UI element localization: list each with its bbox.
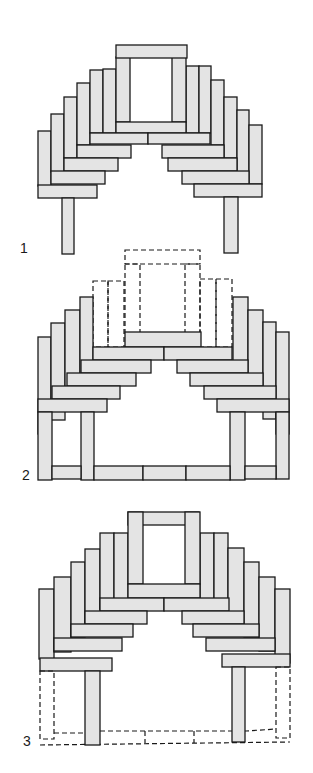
panel-label-3: 3 <box>23 733 31 749</box>
panel-3-diagram <box>39 512 290 745</box>
panel-label-1: 1 <box>20 240 28 256</box>
panel-label-2: 2 <box>22 467 30 483</box>
diagram-canvas <box>0 0 313 773</box>
panel-1-diagram <box>38 45 262 254</box>
panel-2-diagram <box>38 250 289 480</box>
